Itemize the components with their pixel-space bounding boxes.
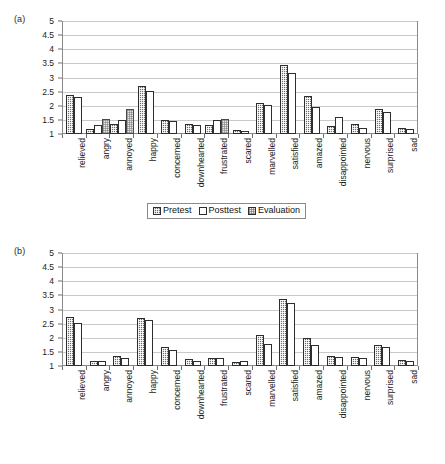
bar (287, 303, 295, 366)
bar-group (181, 253, 205, 366)
x-axis-label: angry (102, 370, 111, 391)
bar (335, 357, 343, 366)
x-axis-label: relieved (78, 138, 87, 168)
bar (351, 124, 359, 134)
legend-item-pretest: Pretest (153, 206, 192, 215)
bar (193, 125, 201, 134)
x-axis-label: concerned (173, 138, 182, 178)
bar (110, 124, 118, 134)
bar (304, 96, 312, 134)
figure-page: { "figure": { "panel_a_tag": "(a)", "pan… (0, 0, 445, 464)
y-axis-tick-label: 5 (49, 249, 54, 258)
bar-group (62, 253, 86, 366)
x-axis-label: relieved (78, 370, 87, 400)
bar-group (204, 253, 228, 366)
bar (213, 120, 221, 134)
x-axis-label: downhearted (197, 138, 206, 187)
x-axis-label: annoyed (125, 138, 134, 171)
bar (241, 131, 249, 134)
legend-swatch-evaluation-icon (248, 207, 256, 215)
bar (398, 128, 406, 134)
bar (375, 109, 383, 134)
bar (169, 121, 177, 134)
bar-group (394, 253, 418, 366)
plot-area-a (62, 21, 418, 134)
bar (233, 130, 241, 134)
bar (169, 350, 177, 366)
bar (185, 359, 193, 366)
legend-swatch-pretest-icon (153, 207, 161, 215)
bar (232, 362, 240, 366)
y-axis-tick-label: 1.5 (42, 116, 54, 125)
x-axis-label: sad (410, 370, 419, 384)
bar (118, 120, 126, 134)
bar-group (371, 253, 395, 366)
x-axis-label: marvelled (268, 138, 277, 175)
bar (383, 112, 391, 134)
x-axis-label: happy (149, 138, 158, 161)
bar-group (109, 253, 133, 366)
y-axis-tick-label: 4.5 (42, 31, 54, 40)
y-axis-tick-label: 1 (49, 362, 54, 371)
x-axis-label: nervous (363, 138, 372, 168)
bar-groups-a (62, 21, 418, 134)
y-axis-tick-label: 2 (49, 102, 54, 111)
bar-group (205, 21, 229, 134)
bar (335, 117, 343, 134)
bar (256, 335, 264, 366)
bar (216, 358, 224, 366)
bar-group (157, 21, 181, 134)
y-axis-tick-label: 3 (49, 305, 54, 314)
y-axis-tick-label: 1.5 (42, 348, 54, 357)
bar (137, 318, 145, 366)
x-axis-label: downhearted (197, 370, 206, 419)
bar (185, 124, 193, 134)
x-axis-label: disappointed (339, 370, 348, 418)
x-axis-label: concerned (173, 370, 182, 410)
x-axis-label: sad (410, 138, 419, 152)
bar-group (86, 21, 110, 134)
bar (406, 129, 414, 134)
chart-panel-a: (a) 54.543.532.521.51 relievedangryannoy… (0, 0, 445, 232)
x-axis-label: scared (244, 370, 253, 396)
bar (312, 107, 320, 134)
y-axis-tick-label: 5 (49, 17, 54, 26)
bar (121, 358, 129, 366)
bar-group (157, 253, 181, 366)
bar (288, 73, 296, 134)
bar (374, 345, 382, 366)
bar-group (323, 21, 347, 134)
bar-group (62, 21, 86, 134)
chart-panel-b: (b) 54.543.532.521.51 relievedangryannoy… (0, 232, 445, 464)
bar (280, 65, 288, 134)
x-axis-label: surprised (386, 370, 395, 405)
bar (74, 323, 82, 366)
legend-label-posttest: Posttest (209, 206, 242, 215)
bar (279, 299, 287, 366)
x-axis-label: satisfied (291, 370, 300, 401)
bar (208, 358, 216, 366)
x-axis-label: amazed (315, 138, 324, 168)
bar (98, 361, 106, 366)
bar (327, 356, 335, 366)
bar-group (252, 21, 276, 134)
legend-item-evaluation: Evaluation (248, 206, 300, 215)
bar-group (86, 253, 110, 366)
legend-label-evaluation: Evaluation (258, 206, 300, 215)
y-axis-tick-label: 2 (49, 334, 54, 343)
bar (205, 125, 213, 134)
x-axis-label: annoyed (125, 370, 134, 403)
bar (382, 347, 390, 366)
legend-swatch-posttest-icon (199, 207, 207, 215)
bar-group (276, 253, 300, 366)
bar (303, 338, 311, 366)
bar (145, 320, 153, 366)
y-axis-tick-label: 2.5 (42, 319, 54, 328)
bar (351, 357, 359, 366)
y-axis-tick-label: 3.5 (42, 59, 54, 68)
bar (221, 119, 229, 134)
bar-group (133, 253, 157, 366)
bar (264, 105, 272, 134)
x-axis-label: nervous (363, 370, 372, 400)
bar (311, 345, 319, 366)
